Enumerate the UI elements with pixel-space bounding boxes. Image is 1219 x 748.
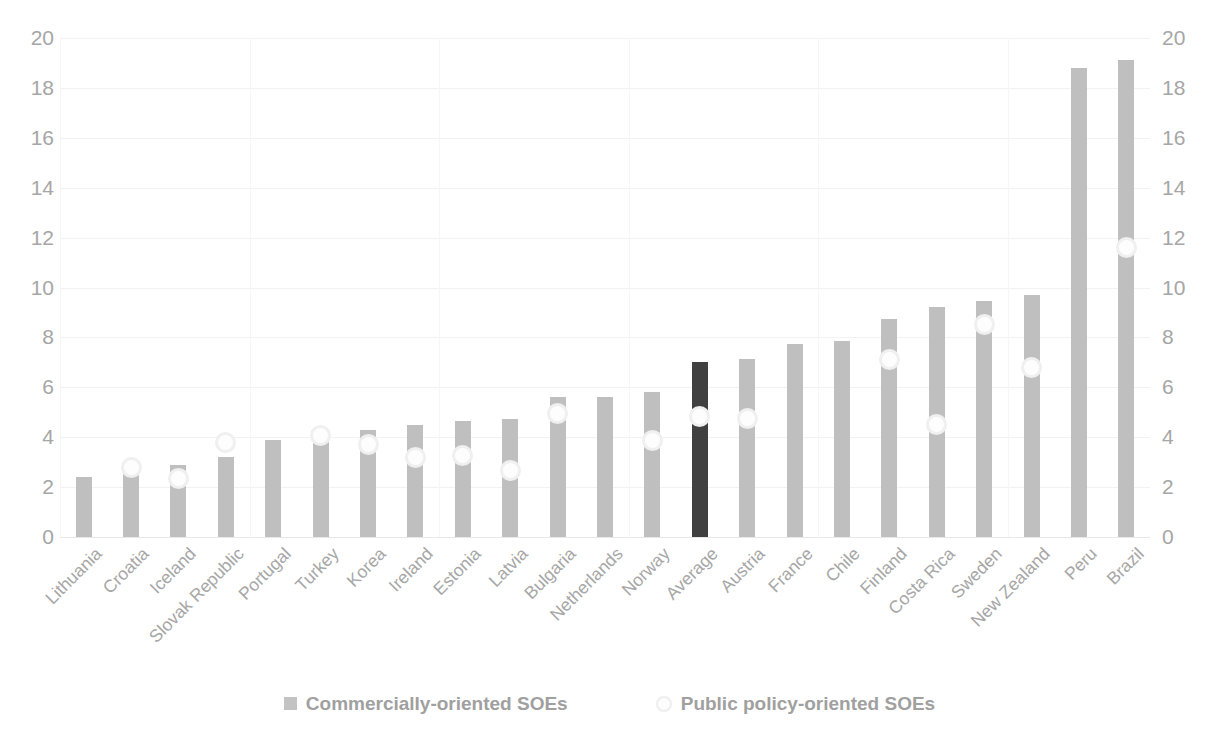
chart-legend: Commercially-oriented SOEs Public policy… [0,694,1219,713]
y-axis-tick-value: 16 [1162,127,1208,148]
bar-group[interactable] [202,38,249,537]
bar-group[interactable] [581,38,628,537]
bar[interactable] [1024,295,1040,537]
bar-group[interactable] [297,38,344,537]
y-axis-tick-value: 0 [8,526,54,547]
bar[interactable] [976,301,992,537]
bar[interactable] [834,341,850,537]
y-axis-tick-value: 0 [1162,526,1208,547]
bar[interactable] [455,421,471,537]
y-axis-tick-value: 16 [8,127,54,148]
left-y-axis: 02468101214161820 [8,38,54,537]
bar[interactable] [692,362,708,537]
y-axis-tick-value: 4 [8,426,54,447]
y-axis-tick-value: 2 [8,476,54,497]
bar-group[interactable] [723,38,770,537]
legend-label-public-policy-oriented: Public policy-oriented SOEs [681,694,935,713]
bars-layer [60,38,1150,537]
data-point-marker[interactable] [1022,358,1041,377]
y-axis-tick-value: 20 [8,27,54,48]
y-axis-tick-value: 12 [1162,227,1208,248]
y-axis-tick-value: 10 [1162,277,1208,298]
bar-group[interactable] [1008,38,1055,537]
data-point-marker[interactable] [738,409,757,428]
bar-group[interactable] [487,38,534,537]
right-y-axis: 02468101214161820 [1162,38,1208,537]
bar[interactable] [787,344,803,537]
y-axis-tick-value: 8 [1162,326,1208,347]
x-axis-category-labels: LithuaniaCroatiaIcelandSlovak RepublicPo… [60,541,1150,671]
data-point-marker[interactable] [169,469,188,488]
bar-group[interactable] [60,38,107,537]
bar[interactable] [1118,60,1134,537]
bar[interactable] [597,397,613,537]
data-point-marker[interactable] [975,315,994,334]
y-axis-tick-value: 14 [1162,177,1208,198]
data-point-marker[interactable] [548,404,567,423]
y-axis-tick-value: 20 [1162,27,1208,48]
bar-group[interactable] [344,38,391,537]
y-axis-tick-value: 2 [1162,476,1208,497]
bar[interactable] [123,470,139,537]
y-axis-tick-value: 6 [1162,376,1208,397]
bar-group[interactable] [960,38,1007,537]
bar-group[interactable] [866,38,913,537]
bar-group[interactable] [250,38,297,537]
bar-group[interactable] [1103,38,1150,537]
square-swatch-icon [284,697,297,710]
data-point-marker[interactable] [690,407,709,426]
soe-bar-chart: 02468101214161820 02468101214161820 Lith… [0,0,1219,748]
data-point-marker[interactable] [122,458,141,477]
y-axis-tick-value: 6 [8,376,54,397]
legend-item-commercially-oriented: Commercially-oriented SOEs [284,694,568,713]
bar[interactable] [739,359,755,537]
bar[interactable] [644,392,660,537]
data-point-marker[interactable] [406,448,425,467]
y-axis-tick-value: 10 [8,277,54,298]
data-point-marker[interactable] [501,461,520,480]
plot-area [60,38,1150,537]
bar-group[interactable] [1055,38,1102,537]
gridline [60,537,1150,538]
bar-group[interactable] [676,38,723,537]
data-point-marker[interactable] [1117,238,1136,257]
y-axis-tick-value: 18 [1162,77,1208,98]
bar[interactable] [1071,68,1087,537]
bar-group[interactable] [439,38,486,537]
y-axis-tick-value: 14 [8,177,54,198]
bar-group[interactable] [913,38,960,537]
circle-swatch-icon [656,696,672,712]
bar[interactable] [313,437,329,537]
legend-label-commercially-oriented: Commercially-oriented SOEs [306,694,568,713]
bar[interactable] [407,425,423,537]
y-axis-tick-value: 8 [8,326,54,347]
bar[interactable] [218,457,234,537]
legend-item-public-policy-oriented: Public policy-oriented SOEs [656,694,935,713]
y-axis-tick-value: 4 [1162,426,1208,447]
bar-group[interactable] [534,38,581,537]
bar-group[interactable] [107,38,154,537]
bar[interactable] [265,440,281,537]
y-axis-tick-value: 12 [8,227,54,248]
y-axis-tick-value: 18 [8,77,54,98]
bar-group[interactable] [818,38,865,537]
bar-group[interactable] [629,38,676,537]
data-point-marker[interactable] [359,435,378,454]
bar-group[interactable] [155,38,202,537]
bar-group[interactable] [392,38,439,537]
data-point-marker[interactable] [216,433,235,452]
bar[interactable] [76,477,92,537]
bar-group[interactable] [771,38,818,537]
